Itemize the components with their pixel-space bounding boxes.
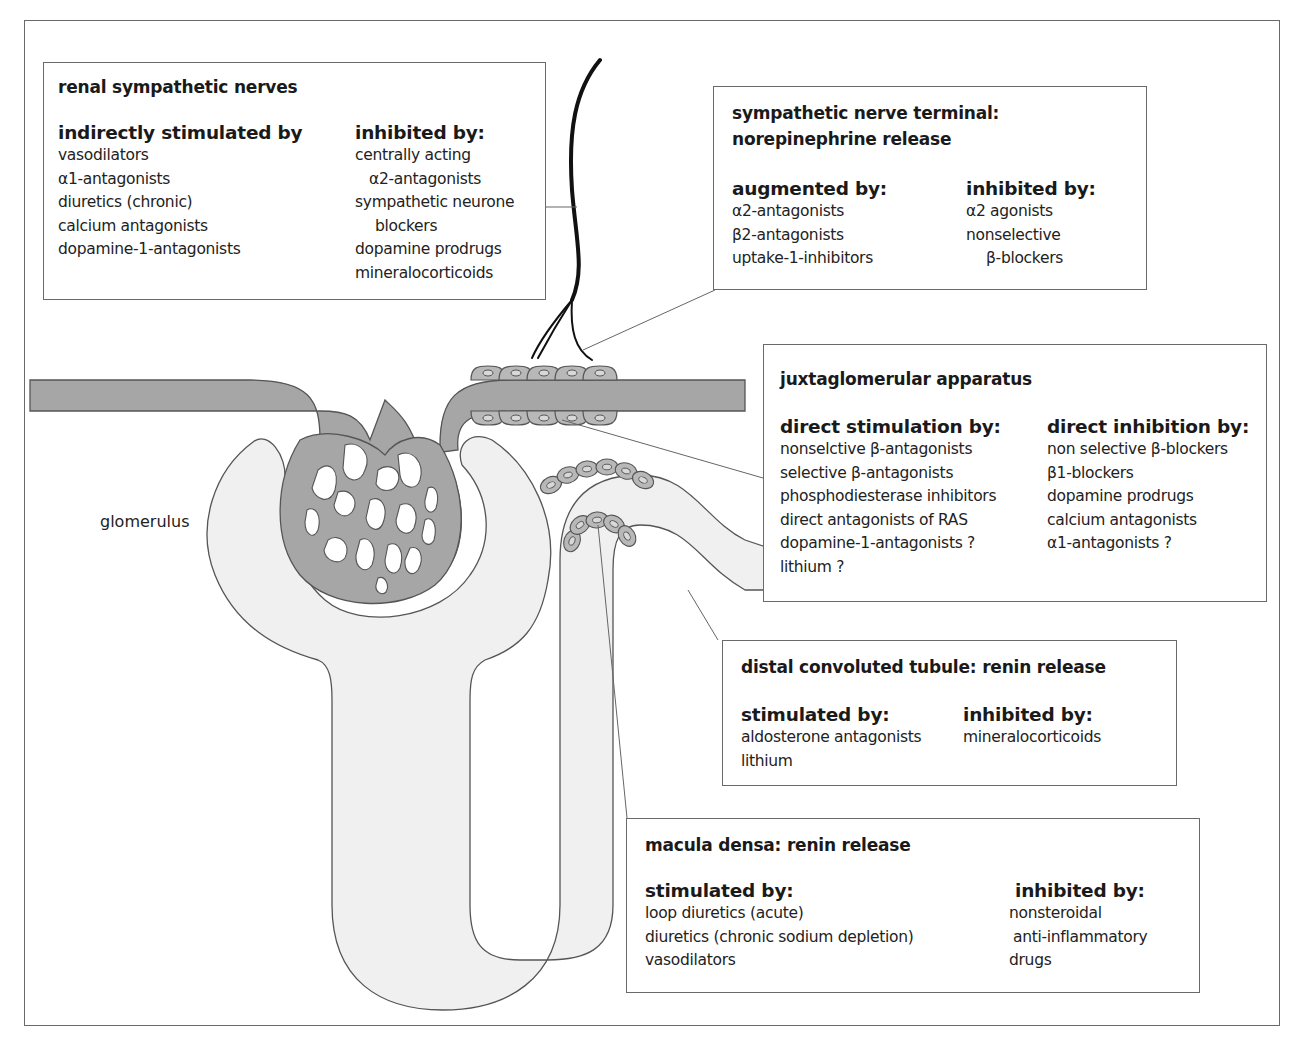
box-title: juxtaglomerular apparatus [780, 367, 1032, 391]
column-heading: stimulated by: [645, 879, 913, 902]
column-heading: direct stimulation by: [780, 415, 1001, 438]
list-item: diuretics (chronic) [58, 191, 302, 215]
list-item: uptake-1-inhibitors [732, 247, 887, 271]
column-heading: indirectly stimulated by [58, 121, 302, 144]
list-item: phosphodiesterase inhibitors [780, 485, 1001, 509]
column-heading: direct inhibition by: [1047, 415, 1249, 438]
list-item: dopamine-1-antagonists ? [780, 532, 1001, 556]
column-heading: inhibited by: [355, 121, 514, 144]
box-title-line1: sympathetic nerve terminal: [732, 101, 999, 125]
list-item: diuretics (chronic sodium depletion) [645, 926, 913, 950]
list-item: mineralocorticoids [963, 726, 1101, 750]
list-item: aldosterone antagonists [741, 726, 921, 750]
juxtaglomerular-apparatus-box: juxtaglomerular apparatus direct stimula… [763, 344, 1267, 602]
list-item: loop diuretics (acute) [645, 902, 913, 926]
list-item: direct antagonists of RAS [780, 509, 1001, 533]
box-title: renal sympathetic nerves [58, 75, 297, 99]
list-item: α1-antagonists ? [1047, 532, 1249, 556]
column-heading: inhibited by: [963, 703, 1101, 726]
distal-convoluted-tubule-box: distal convoluted tubule: renin release … [722, 640, 1177, 786]
inhibited-by-column: inhibited by: nonsteroidal anti-inflamma… [1009, 879, 1147, 973]
list-item: vasodilators [58, 144, 302, 168]
box-title-line2: norepinephrine release [732, 127, 951, 151]
column-heading: stimulated by: [741, 703, 921, 726]
list-item: α2-antagonists [732, 200, 887, 224]
nerve-terminal-box: sympathetic nerve terminal: norepinephri… [713, 86, 1147, 290]
list-item: drugs [1009, 949, 1147, 973]
stimulated-by-column: stimulated by: loop diuretics (acute) di… [645, 879, 913, 973]
list-item: vasodilators [645, 949, 913, 973]
list-item: selective β-antagonists [780, 462, 1001, 486]
list-item: β1-blockers [1047, 462, 1249, 486]
inhibited-by-column: inhibited by: α2 agonists nonselective β… [966, 177, 1096, 271]
list-item: dopamine prodrugs [1047, 485, 1249, 509]
list-item: α2-antagonists [355, 168, 514, 192]
direct-inhibition-column: direct inhibition by: non selective β-bl… [1047, 415, 1249, 556]
inhibited-by-column: inhibited by: centrally acting α2-antago… [355, 121, 514, 285]
list-item: α1-antagonists [58, 168, 302, 192]
augmented-by-column: augmented by: α2-antagonists β2-antagoni… [732, 177, 887, 271]
list-item: α2 agonists [966, 200, 1096, 224]
macula-densa-box: macula densa: renin release stimulated b… [626, 818, 1200, 993]
list-item: lithium ? [780, 556, 1001, 580]
list-item: sympathetic neurone [355, 191, 514, 215]
list-item: anti-inflammatory [1009, 926, 1147, 950]
list-item: dopamine-1-antagonists [58, 238, 302, 262]
list-item: centrally acting [355, 144, 514, 168]
column-heading: augmented by: [732, 177, 887, 200]
inhibited-by-column: inhibited by: mineralocorticoids [963, 703, 1101, 750]
column-heading: inhibited by: [966, 177, 1096, 200]
list-item: blockers [355, 215, 514, 239]
list-item: calcium antagonists [58, 215, 302, 239]
stimulated-by-column: indirectly stimulated by vasodilators α1… [58, 121, 302, 262]
renal-sympathetic-nerves-box: renal sympathetic nerves indirectly stim… [43, 62, 546, 300]
list-item: calcium antagonists [1047, 509, 1249, 533]
list-item: dopamine prodrugs [355, 238, 514, 262]
glomerulus-label: glomerulus [100, 512, 189, 531]
direct-stimulation-column: direct stimulation by: nonselctive β-ant… [780, 415, 1001, 579]
list-item: mineralocorticoids [355, 262, 514, 286]
list-item: nonselective [966, 224, 1096, 248]
box-title: macula densa: renin release [645, 833, 911, 857]
list-item: nonsteroidal [1009, 902, 1147, 926]
stimulated-by-column: stimulated by: aldosterone antagonists l… [741, 703, 921, 773]
box-title: distal convoluted tubule: renin release [741, 655, 1106, 679]
list-item: β-blockers [966, 247, 1096, 271]
list-item: nonselctive β-antagonists [780, 438, 1001, 462]
list-item: lithium [741, 750, 921, 774]
column-heading: inhibited by: [1009, 879, 1147, 902]
list-item: non selective β-blockers [1047, 438, 1249, 462]
list-item: β2-antagonists [732, 224, 887, 248]
